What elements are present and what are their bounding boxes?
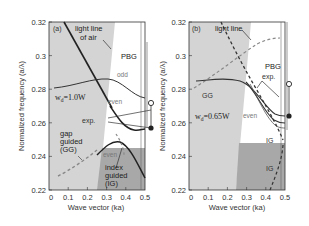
svg-text:0.32: 0.32 [171, 18, 186, 27]
svg-text:0.24: 0.24 [171, 152, 186, 161]
exp-filled-marker [286, 113, 291, 118]
x-axis-title-b: Wave vector (ka) [209, 203, 266, 212]
x-axis-title-a: Wave vector (ka) [68, 203, 125, 212]
even-label-bottom: even [103, 151, 117, 158]
panel-b: (b) light line PBG exp. GG wd=0.65W even… [158, 18, 292, 212]
svg-text:0.26: 0.26 [171, 119, 186, 128]
svg-text:0.3: 0.3 [36, 52, 46, 61]
wd-label: wd=1.0W [55, 93, 86, 103]
svg-text:0.28: 0.28 [31, 85, 46, 94]
exp-label: exp. [262, 73, 275, 81]
figure: (a) light line of air PBG odd even exp. … [0, 0, 309, 226]
svg-text:0: 0 [189, 193, 193, 202]
svg-text:0.2: 0.2 [82, 193, 92, 202]
index-guided-region [236, 143, 285, 190]
svg-text:0.5: 0.5 [140, 193, 150, 202]
wd-label: wd=0.65W [195, 112, 230, 122]
ig-label-lower: IG [266, 165, 273, 172]
svg-text:0.2: 0.2 [222, 193, 232, 202]
ig-label-3: (IG) [105, 179, 118, 188]
pbg-label: PBG [265, 62, 281, 71]
svg-text:0: 0 [49, 193, 53, 202]
svg-text:0.28: 0.28 [171, 85, 186, 94]
light-line-label: light line [75, 24, 103, 33]
svg-text:0.4: 0.4 [121, 193, 131, 202]
even-label-top: even [108, 98, 122, 105]
light-line-label: light line [215, 24, 243, 33]
ig-label-upper: IG [266, 137, 273, 144]
even-label: even [243, 112, 257, 119]
pbg-label: PBG [121, 52, 137, 61]
svg-text:0.24: 0.24 [31, 152, 46, 161]
y-axis-title-b: Normalized frequency (a/λ) [158, 60, 167, 151]
odd-label: odd [117, 71, 128, 78]
exp-open-marker [148, 100, 153, 105]
exp-label: exp. [82, 117, 95, 125]
svg-text:0.4: 0.4 [261, 193, 271, 202]
svg-text:0.3: 0.3 [176, 52, 186, 61]
svg-text:0.26: 0.26 [31, 119, 46, 128]
svg-text:0.1: 0.1 [63, 193, 73, 202]
gg-label-3: (GG) [60, 145, 77, 154]
of-air-label: of air [80, 33, 97, 42]
panel-a: (a) light line of air PBG odd even exp. … [17, 18, 154, 212]
svg-text:0.32: 0.32 [31, 18, 46, 27]
svg-text:0.1: 0.1 [203, 193, 213, 202]
gg-label: GG [202, 92, 213, 99]
exp-open-marker [286, 81, 291, 86]
y-axis-title-a: Normalized frequency (a/λ) [17, 60, 26, 151]
exp-filled-marker [148, 125, 153, 130]
panel-b-tag: (b) [192, 25, 201, 33]
panel-a-tag: (a) [53, 25, 62, 33]
svg-text:0.5: 0.5 [280, 193, 290, 202]
svg-text:0.22: 0.22 [171, 186, 186, 195]
svg-text:0.22: 0.22 [31, 186, 46, 195]
svg-text:0.3: 0.3 [241, 193, 251, 202]
svg-text:0.3: 0.3 [101, 193, 111, 202]
